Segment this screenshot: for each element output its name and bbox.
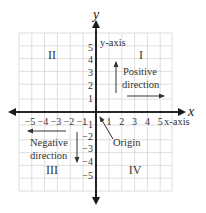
negative-direction-annotation: Negative direction [28,131,77,162]
svg-text:−3: −3 [51,116,62,127]
svg-text:−5: −5 [82,170,93,181]
svg-text:2: 2 [119,116,124,127]
svg-text:Negative: Negative [30,137,68,148]
y-axis-caption: y-axis [100,37,126,48]
quadrant-IV: IV [129,163,142,177]
svg-text:−2: −2 [82,131,93,142]
svg-text:−3: −3 [82,143,93,154]
quadrant-II: II [48,48,56,62]
axes [10,22,184,203]
x-ticks-negative: −5 −4 −3 −2 −1 [25,116,88,127]
svg-text:direction: direction [122,79,160,90]
svg-text:1: 1 [107,116,112,127]
svg-text:direction: direction [30,150,68,161]
quadrant-III: III [46,163,58,177]
svg-text:−4: −4 [82,156,93,167]
svg-text:3: 3 [88,67,93,78]
y-ticks-positive: 1 2 3 4 5 [88,42,93,104]
svg-text:−2: −2 [64,116,75,127]
svg-text:Origin: Origin [113,137,141,148]
y-axis-letter: y [91,7,100,22]
svg-text:−4: −4 [38,116,49,127]
positive-direction-annotation: Positive direction [116,62,164,96]
svg-text:3: 3 [132,116,137,127]
svg-text:4: 4 [145,116,150,127]
svg-text:−5: −5 [25,116,36,127]
svg-text:1: 1 [88,93,93,104]
svg-text:5: 5 [88,42,93,53]
svg-text:2: 2 [88,80,93,91]
svg-text:4: 4 [88,54,93,65]
x-axis-caption: x-axis [164,116,190,127]
svg-text:−1: −1 [77,116,88,127]
svg-text:Positive: Positive [123,66,157,77]
svg-text:5: 5 [158,116,163,127]
quadrant-I: I [139,48,143,62]
y-ticks-negative: −1 −2 −3 −4 −5 [82,119,93,181]
coordinate-plane: y x y-axis x-axis 1 2 3 4 5 −1 −2 −3 −4 … [0,0,206,213]
